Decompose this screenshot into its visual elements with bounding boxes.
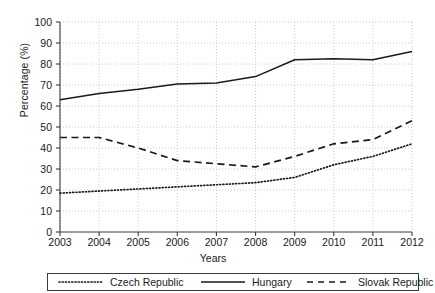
y-tick-label: 80 bbox=[18, 59, 52, 70]
chart-legend: Czech RepublicHungarySlovak Republic bbox=[47, 273, 419, 291]
x-axis-title: Years bbox=[0, 252, 426, 264]
x-tick-label: 2012 bbox=[389, 236, 435, 248]
legend-item-slovak-republic[interactable]: Slovak Republic bbox=[306, 274, 433, 290]
y-tick-label: 10 bbox=[18, 206, 52, 217]
legend-item-hungary[interactable]: Hungary bbox=[200, 274, 292, 290]
legend-swatch-dashed-icon bbox=[306, 277, 352, 287]
legend-label: Czech Republic bbox=[110, 276, 184, 288]
y-tick-label: 40 bbox=[18, 143, 52, 154]
axis-lines bbox=[60, 22, 412, 232]
y-tick-label: 20 bbox=[18, 185, 52, 196]
legend-item-czech-republic[interactable]: Czech Republic bbox=[58, 274, 184, 290]
legend-label: Slovak Republic bbox=[358, 276, 433, 288]
gridlines bbox=[60, 22, 412, 232]
y-tick-label: 60 bbox=[18, 101, 52, 112]
y-tick-label: 100 bbox=[18, 17, 52, 28]
y-tick-label: 70 bbox=[18, 80, 52, 91]
legend-swatch-solid-icon bbox=[200, 277, 246, 287]
y-tick-label: 90 bbox=[18, 38, 52, 49]
legend-label: Hungary bbox=[252, 276, 292, 288]
series-line-czech-republic bbox=[60, 144, 412, 193]
data-series-layer bbox=[60, 51, 412, 193]
legend-swatch-dotted-icon bbox=[58, 277, 104, 287]
series-line-hungary bbox=[60, 51, 412, 99]
y-tick-label: 30 bbox=[18, 164, 52, 175]
y-tick-label: 50 bbox=[18, 122, 52, 133]
axis-tickmarks bbox=[56, 22, 412, 236]
